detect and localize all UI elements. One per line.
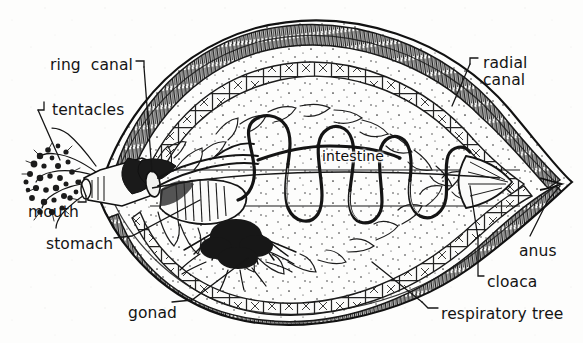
label-cloaca: cloaca	[487, 274, 537, 290]
label-mouth: mouth	[28, 204, 79, 220]
label-anus: anus	[519, 243, 557, 259]
label-intestine: intestine	[322, 149, 384, 164]
label-radial-canal-line2: canal	[483, 72, 525, 89]
label-radial-canal-line1: radial	[483, 55, 527, 72]
figure-page: ring canal tentacles mouth stomach gonad…	[0, 0, 583, 343]
label-gonad: gonad	[128, 305, 177, 321]
label-respiratory-tree: respiratory tree	[441, 306, 563, 322]
anatomy-illustration	[0, 0, 583, 343]
label-stomach: stomach	[46, 236, 113, 252]
label-tentacles: tentacles	[52, 102, 124, 118]
stomach	[160, 180, 246, 224]
label-ring-canal: ring canal	[50, 57, 133, 73]
